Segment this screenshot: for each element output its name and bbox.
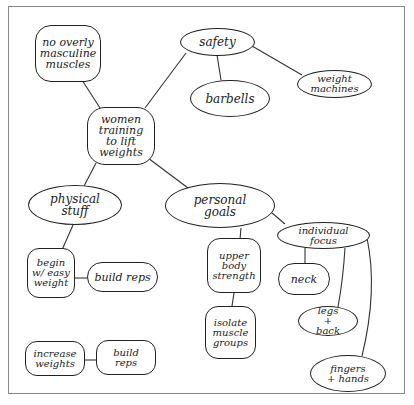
edge-upper-isolate [232, 293, 234, 306]
node-build-reps-1: build reps [87, 262, 158, 292]
node-increase-weights: increase weights [25, 341, 85, 376]
node-label: fingers + hands [327, 364, 369, 384]
edge-center-safety [145, 53, 186, 108]
node-personal-goals: personal goals [165, 183, 275, 228]
node-individual-focus: individual focus [277, 222, 370, 249]
node-label: upper body strength [211, 251, 257, 281]
edge-physical-begin [62, 225, 73, 250]
node-label: individual focus [294, 226, 353, 246]
edge-safety-machines [252, 46, 302, 75]
node-legs-back: legs + back [298, 306, 358, 336]
node-barbells: barbells [190, 80, 270, 117]
node-isolate-muscle-groups: isolate muscle groups [205, 306, 256, 359]
edge-center-nomasc [82, 80, 100, 108]
node-women-training: women training to lift weights [87, 107, 155, 165]
node-physical-stuff: physical stuff [28, 185, 122, 225]
node-neck: neck [278, 263, 330, 295]
node-label: increase weights [26, 349, 84, 369]
node-label: physical stuff [47, 193, 103, 217]
edge-safety-barbells [217, 55, 221, 80]
edge-personal-individual [272, 213, 285, 224]
node-label: isolate muscle groups [209, 318, 252, 348]
node-label: legs + back [313, 306, 343, 336]
edge-center-personal [148, 158, 188, 188]
node-safety: safety [180, 28, 255, 56]
node-no-masculine-muscles: no overly masculine muscles [35, 25, 101, 82]
node-label: build reps [94, 272, 150, 283]
node-label: weight machines [306, 74, 363, 94]
node-weight-machines: weight machines [297, 70, 372, 98]
node-label: women training to lift weights [92, 114, 150, 158]
node-label: personal goals [191, 194, 249, 218]
node-label: begin w/ easy weight [30, 258, 72, 288]
node-label: no overly masculine muscles [36, 37, 100, 70]
edge-individual-fingers [362, 238, 371, 356]
node-begin-easy-weight: begin w/ easy weight [27, 248, 75, 298]
node-fingers-hands: fingers + hands [310, 355, 386, 392]
edge-individual-legs [338, 248, 345, 307]
node-upper-body-strength: upper body strength [207, 238, 261, 293]
node-build-reps-2: build reps [96, 340, 156, 375]
node-label: barbells [205, 93, 254, 105]
node-label: neck [291, 274, 317, 285]
node-label: safety [199, 36, 235, 48]
node-label: build reps [109, 348, 143, 368]
